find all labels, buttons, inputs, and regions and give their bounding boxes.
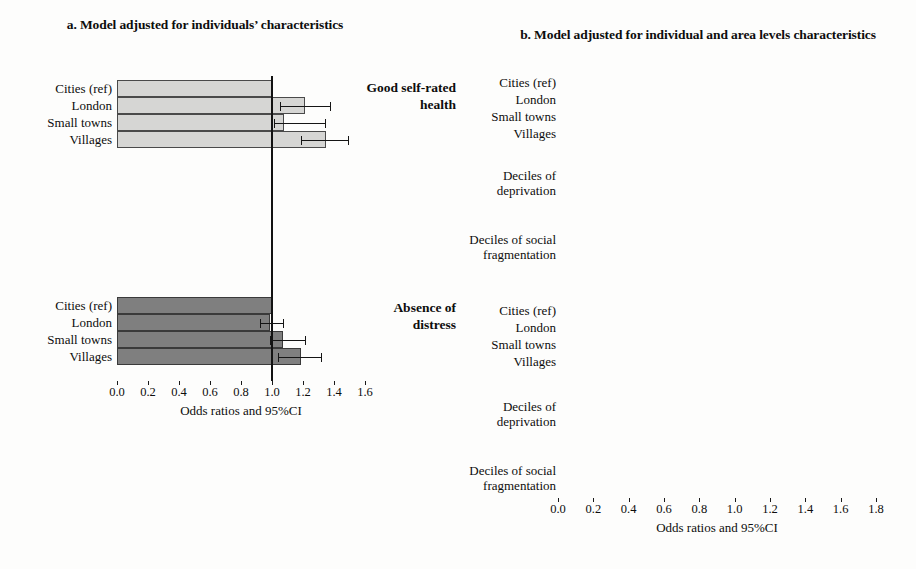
panel-a-health-row-labels: Cities (ref) London Small towns Villages — [0, 80, 112, 148]
axis-tick-label: 0.2 — [578, 502, 608, 517]
error-bar-cap-low — [260, 319, 261, 328]
error-bar-cap-low — [301, 136, 302, 145]
bar-row[interactable] — [117, 97, 365, 114]
axis-tick-label: 1.2 — [755, 502, 785, 517]
error-bar-cap-high — [283, 319, 284, 328]
error-bar — [270, 340, 306, 341]
error-bar-cap-high — [330, 102, 331, 111]
row-label-small-towns: Small towns — [446, 336, 556, 353]
group-label-deprivation-health: Deciles of deprivation — [446, 168, 556, 199]
bar[interactable] — [117, 314, 270, 331]
bar-group — [117, 297, 365, 365]
group-label-deprivation-distress: Deciles of deprivation — [446, 399, 556, 430]
panel-a-title: a. Model adjusted for individuals’ chara… — [40, 16, 370, 33]
axis-tick-label: 1.2 — [288, 385, 318, 400]
panel-a-distress-row-labels: Cities (ref) London Small towns Villages — [0, 297, 112, 365]
axis-tick-label: 0.0 — [543, 502, 573, 517]
axis-tick-label: 0.2 — [133, 385, 163, 400]
error-bar-cap-low — [280, 102, 281, 111]
bar-row[interactable] — [117, 114, 365, 131]
outcome-label-absence-distress: Absence of distress — [360, 300, 456, 334]
axis-tick-label: 1.4 — [790, 502, 820, 517]
axis-tick-label: 1.6 — [350, 385, 380, 400]
row-label-small-towns: Small towns — [0, 331, 112, 348]
panel-b-title: b. Model adjusted for individual and are… — [518, 26, 878, 43]
error-bar-cap-high — [348, 136, 349, 145]
panel-b-axis-title: Odds ratios and 95%CI — [558, 520, 876, 536]
error-bar-cap-low — [274, 119, 275, 128]
row-label-small-towns: Small towns — [0, 114, 112, 131]
error-bar — [260, 323, 285, 324]
row-label-cities: Cities (ref) — [446, 302, 556, 319]
row-label-cities: Cities (ref) — [0, 297, 112, 314]
axis-tick-label: 0.4 — [614, 502, 644, 517]
axis-tick-label: 0.8 — [226, 385, 256, 400]
row-label-cities: Cities (ref) — [446, 74, 556, 91]
error-bar — [274, 123, 327, 124]
error-bar-cap-high — [325, 119, 326, 128]
bar[interactable] — [117, 297, 272, 314]
row-label-london: London — [0, 97, 112, 114]
bar-group — [117, 80, 365, 148]
bar-row[interactable] — [117, 131, 365, 148]
panel-b-distress-row-labels: Cities (ref) London Small towns Villages — [446, 302, 556, 370]
row-label-villages: Villages — [0, 131, 112, 148]
axis-tick-label: 1.0 — [257, 385, 287, 400]
bar-row[interactable] — [117, 297, 365, 314]
row-label-london: London — [0, 314, 112, 331]
axis-tick-label: 0.4 — [164, 385, 194, 400]
axis-tick-label: 0.6 — [649, 502, 679, 517]
row-label-villages: Villages — [0, 348, 112, 365]
bar[interactable] — [117, 348, 301, 365]
axis-tick-label: 0.8 — [684, 502, 714, 517]
axis-tick-label: 1.4 — [319, 385, 349, 400]
row-label-villages: Villages — [446, 353, 556, 370]
bar[interactable] — [117, 114, 284, 131]
group-label-fragmentation-distress: Deciles of social fragmentation — [422, 463, 556, 494]
row-label-villages: Villages — [446, 125, 556, 142]
axis-tick-label: 1.6 — [826, 502, 856, 517]
row-label-cities: Cities (ref) — [0, 80, 112, 97]
panel-a-axis-title: Odds ratios and 95%CI — [117, 403, 365, 419]
bar[interactable] — [117, 97, 305, 114]
panel-a-plot-area — [117, 76, 365, 381]
bar-row[interactable] — [117, 348, 365, 365]
row-label-london: London — [446, 91, 556, 108]
error-bar-cap-low — [270, 336, 271, 345]
bar[interactable] — [117, 331, 283, 348]
error-bar-cap-high — [321, 353, 322, 362]
axis-tick-label: 1.0 — [720, 502, 750, 517]
error-bar — [278, 357, 321, 358]
outcome-label-good-health: Good self-rated health — [360, 80, 456, 114]
bar-row[interactable] — [117, 314, 365, 331]
axis-tick-label: 1.8 — [861, 502, 891, 517]
row-label-london: London — [446, 319, 556, 336]
bar-row[interactable] — [117, 80, 365, 97]
panel-model-b: b. Model adjusted for individual and are… — [458, 0, 916, 569]
row-label-small-towns: Small towns — [446, 108, 556, 125]
axis-tick-label: 0.0 — [102, 385, 132, 400]
group-label-fragmentation-health: Deciles of social fragmentation — [422, 232, 556, 263]
bar-row[interactable] — [117, 331, 365, 348]
error-bar-cap-low — [278, 353, 279, 362]
axis-tick-label: 0.6 — [195, 385, 225, 400]
error-bar — [301, 140, 349, 141]
bar[interactable] — [117, 80, 272, 97]
error-bar-cap-high — [305, 336, 306, 345]
bar[interactable] — [117, 131, 326, 148]
panel-b-health-row-labels: Cities (ref) London Small towns Villages — [446, 74, 556, 142]
error-bar — [280, 106, 331, 107]
